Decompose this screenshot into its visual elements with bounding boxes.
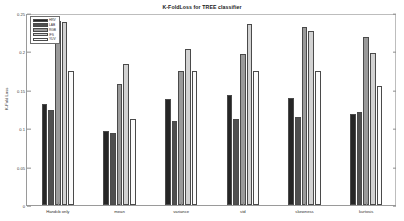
y-axis-tick-label: 0.15 bbox=[17, 88, 25, 93]
chart-legend: HRVLABRGBIFSYUV bbox=[30, 16, 60, 44]
bar bbox=[315, 71, 321, 205]
y-axis-tick bbox=[27, 206, 31, 207]
plot-area: 00.050.10.150.20.25Handcb onlymeanvarian… bbox=[26, 14, 396, 206]
bar bbox=[227, 95, 233, 205]
y-axis-tick-right bbox=[393, 52, 397, 53]
bar bbox=[130, 119, 136, 205]
x-axis-tick-label: std bbox=[240, 209, 246, 214]
bar bbox=[178, 71, 184, 205]
legend-label: RGB bbox=[49, 28, 56, 32]
legend-item: YUV bbox=[33, 37, 58, 41]
legend-label: YUV bbox=[49, 37, 56, 41]
bar bbox=[117, 84, 123, 205]
legend-label: HRV bbox=[49, 18, 56, 22]
y-axis-tick-label: 0 bbox=[23, 204, 25, 209]
x-axis-tick-label: variance bbox=[173, 209, 189, 214]
legend-swatch bbox=[33, 28, 48, 31]
legend-item: HRV bbox=[33, 18, 58, 22]
x-axis-tick-label: Handcb only bbox=[46, 209, 69, 214]
bar-group bbox=[227, 14, 259, 205]
x-axis-tick bbox=[305, 202, 306, 205]
bar bbox=[110, 133, 116, 205]
legend-label: IFS bbox=[49, 33, 54, 37]
y-axis-tick-right bbox=[393, 14, 397, 15]
y-axis-tick bbox=[27, 14, 31, 15]
bar bbox=[288, 98, 294, 205]
x-axis-tick-label: skewness bbox=[295, 209, 313, 214]
y-axis-tick bbox=[27, 90, 31, 91]
y-axis-tick-label: 0.1 bbox=[19, 127, 25, 132]
bar bbox=[370, 53, 376, 205]
legend-swatch bbox=[33, 23, 48, 26]
bar bbox=[123, 64, 129, 205]
bar-group bbox=[288, 14, 320, 205]
bar bbox=[253, 71, 259, 205]
y-axis-tick bbox=[27, 167, 31, 168]
legend-swatch bbox=[33, 33, 48, 36]
y-axis-tick-right bbox=[393, 206, 397, 207]
y-axis-title: K-Fold Loss bbox=[4, 88, 9, 110]
plot-top-border bbox=[27, 14, 396, 15]
bar bbox=[165, 99, 171, 205]
legend-swatch bbox=[33, 38, 48, 41]
y-axis-tick bbox=[27, 129, 31, 130]
x-axis-tick bbox=[243, 202, 244, 205]
y-axis-tick-right bbox=[393, 129, 397, 130]
legend-item: RGB bbox=[33, 28, 58, 32]
plot-right-border bbox=[395, 14, 396, 205]
bar bbox=[192, 71, 198, 205]
bar-group bbox=[103, 14, 135, 205]
bar bbox=[48, 110, 54, 205]
y-axis-tick-label: 0.25 bbox=[17, 12, 25, 17]
bar bbox=[357, 112, 363, 205]
legend-label: LAB bbox=[49, 23, 55, 27]
chart-title: K-FoldLoss for TREE classifier bbox=[0, 4, 404, 10]
x-axis-tick bbox=[120, 202, 121, 205]
y-axis-tick bbox=[27, 52, 31, 53]
bar bbox=[62, 22, 68, 205]
legend-swatch bbox=[33, 19, 48, 22]
bar bbox=[363, 37, 369, 205]
legend-item: LAB bbox=[33, 23, 58, 27]
bar bbox=[68, 71, 74, 205]
bar bbox=[308, 31, 314, 205]
x-axis-tick bbox=[58, 202, 59, 205]
bar bbox=[302, 27, 308, 205]
bar bbox=[103, 131, 109, 205]
x-axis-tick bbox=[366, 202, 367, 205]
bar bbox=[233, 119, 239, 205]
y-axis-tick-right bbox=[393, 90, 397, 91]
legend-item: IFS bbox=[33, 33, 58, 37]
bar bbox=[185, 49, 191, 205]
bar bbox=[42, 104, 48, 205]
bar bbox=[247, 24, 253, 205]
bar bbox=[295, 117, 301, 205]
chart-figure: K-FoldLoss for TREE classifier K-Fold Lo… bbox=[0, 0, 404, 221]
bar-group bbox=[165, 14, 197, 205]
bar bbox=[172, 121, 178, 205]
bar bbox=[377, 86, 383, 205]
y-axis-tick-label: 0.05 bbox=[17, 165, 25, 170]
x-axis-tick-label: mean bbox=[114, 209, 124, 214]
y-axis-tick-label: 0.2 bbox=[19, 50, 25, 55]
bar bbox=[240, 54, 246, 205]
bar-group bbox=[350, 14, 382, 205]
bar bbox=[55, 21, 61, 205]
x-axis-tick-label: kurtosis bbox=[359, 209, 373, 214]
y-axis-tick-right bbox=[393, 167, 397, 168]
x-axis-tick bbox=[181, 202, 182, 205]
bar bbox=[350, 114, 356, 205]
